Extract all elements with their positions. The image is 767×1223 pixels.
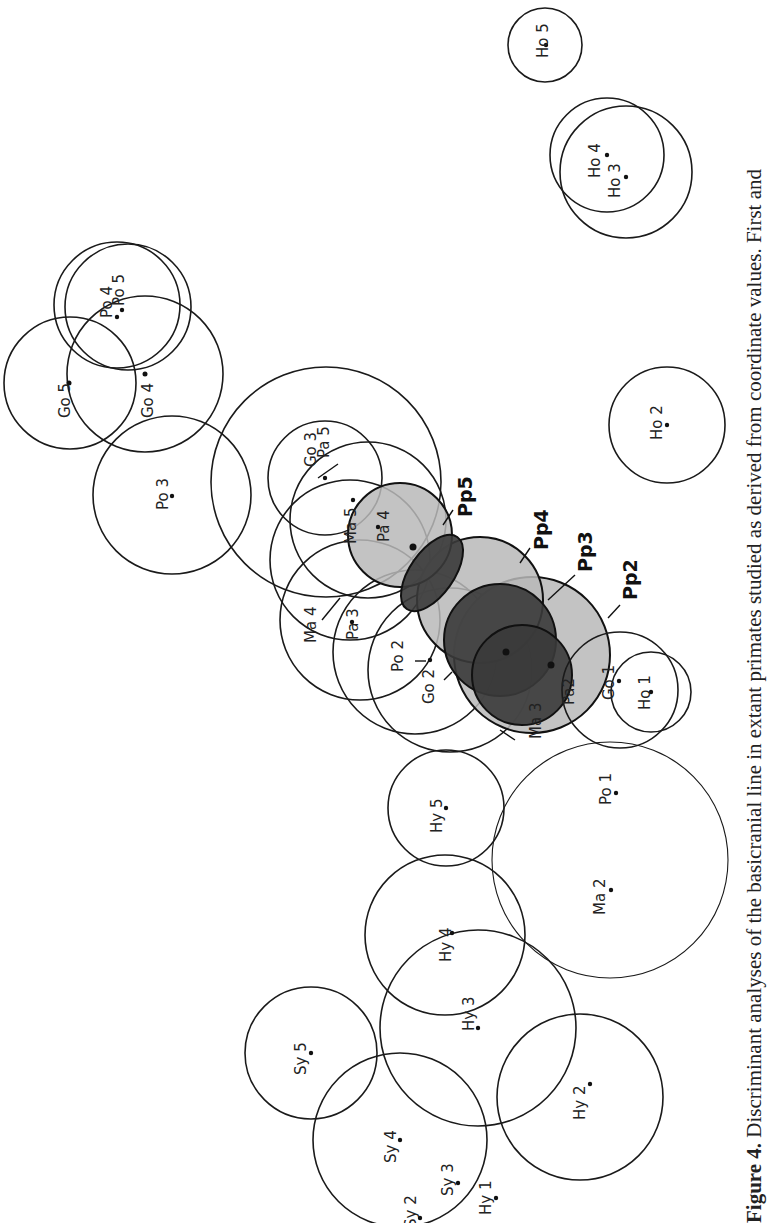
label-ma3: Ma 3 xyxy=(527,703,545,739)
label-po3: Po 3 xyxy=(154,478,172,510)
label-ma5: Ma 5 xyxy=(342,508,360,544)
label-pa3: Pa 3 xyxy=(344,608,362,640)
label-hy2: Hy 2 xyxy=(571,1086,589,1120)
label-pp4: Pp4 xyxy=(530,509,552,550)
label-go4: Go 4 xyxy=(139,383,157,418)
caption-text: Discriminant analyses of the basicranial… xyxy=(742,169,766,1143)
label-sy5: Sy 5 xyxy=(292,1042,310,1075)
label-ma4: Ma 4 xyxy=(302,607,320,643)
label-pp2: Pp2 xyxy=(619,559,641,600)
label-po5: Po 5 xyxy=(110,274,128,306)
label-pa2: Pa2 xyxy=(560,678,578,705)
label-ho5: Ho 5 xyxy=(534,23,552,58)
label-sy4: Sy 4 xyxy=(382,1130,400,1163)
label-pp3: Pp3 xyxy=(574,531,596,572)
label-ho1: Ho 1 xyxy=(636,675,654,710)
label-hy5: Hy 5 xyxy=(428,799,446,833)
label-ho2: Ho 2 xyxy=(648,405,666,440)
label-go1: Go 1 xyxy=(600,665,618,700)
label-po2: Po 2 xyxy=(389,640,407,672)
label-hy1: Hy 1 xyxy=(477,1181,495,1215)
label-pp5: Pp5 xyxy=(454,476,476,517)
group-pp-shaded xyxy=(348,483,678,748)
ho3-circle xyxy=(560,106,692,238)
label-hy3: Hy 3 xyxy=(460,997,478,1031)
label-go2: Go 2 xyxy=(420,669,438,704)
ma3-pa2-overlap xyxy=(472,625,572,725)
label-hy4: Hy 4 xyxy=(437,928,455,962)
label-ho4: Ho 4 xyxy=(586,143,604,178)
label-ma2: Ma 2 xyxy=(591,879,609,915)
label-pa5: Pa 5 xyxy=(315,426,333,458)
label-po1: Po 1 xyxy=(597,773,615,805)
label-sy2: Sy 2 xyxy=(402,1195,420,1223)
label-pa4: Pa 4 xyxy=(375,510,393,542)
figure-number: Figure 4. xyxy=(742,1143,766,1223)
group-lower xyxy=(245,742,728,1223)
label-ho3: Ho 3 xyxy=(606,163,624,198)
label-go5: Go 5 xyxy=(56,383,74,418)
figure-caption: Figure 4. Discriminant analyses of the b… xyxy=(742,0,767,1223)
label-sy3: Sy 3 xyxy=(439,1163,457,1196)
